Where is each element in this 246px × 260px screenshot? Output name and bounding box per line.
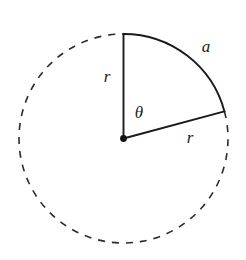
label-theta: θ <box>135 103 143 122</box>
label-arc-length: a <box>202 37 211 56</box>
geometry-figure: r θ a r <box>0 0 246 260</box>
center-dot <box>120 135 127 142</box>
label-radius-vertical: r <box>104 67 111 86</box>
label-radius-angled: r <box>187 128 194 147</box>
circle-sector-svg: r θ a r <box>0 0 246 260</box>
